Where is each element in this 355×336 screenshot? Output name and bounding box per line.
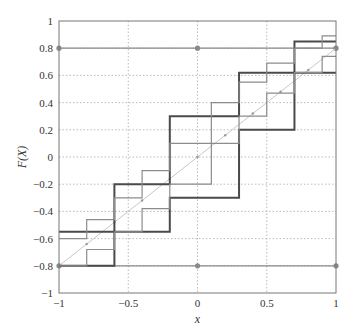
chart: −1−0.500.51 −1−0.8−0.6−0.4−0.200.20.40.6… <box>0 0 355 336</box>
diagonal-marker <box>196 156 198 158</box>
x-axis-label: x <box>194 312 201 326</box>
x-tick-label: 0.5 <box>260 297 274 309</box>
x-tick-label: 1 <box>333 297 339 309</box>
y-tick-label: −0.8 <box>33 260 53 272</box>
y-tick-label: −0.2 <box>33 178 53 190</box>
diagonal-marker <box>224 134 226 136</box>
y-tick-label: −0.4 <box>33 205 53 217</box>
y-tick-label: −0.6 <box>33 233 53 245</box>
diagonal-marker <box>252 112 254 114</box>
diagonal-marker <box>307 69 309 71</box>
y-tick-label: 0.8 <box>39 42 53 54</box>
bound-marker <box>195 46 200 51</box>
diagonal-marker <box>141 199 143 201</box>
y-axis-ticks: −1−0.8−0.6−0.4−0.200.20.40.60.81 <box>33 15 53 299</box>
y-tick-label: −1 <box>41 287 53 299</box>
y-tick-label: 0.4 <box>39 97 53 109</box>
y-tick-label: 0 <box>48 151 54 163</box>
y-tick-label: 0.2 <box>39 124 53 136</box>
y-tick-label: 1 <box>48 15 54 27</box>
x-tick-label: −1 <box>53 297 65 309</box>
x-tick-label: −0.5 <box>118 297 138 309</box>
x-tick-label: 0 <box>195 297 201 309</box>
bound-marker <box>195 263 200 268</box>
x-axis-ticks: −1−0.500.51 <box>53 297 339 309</box>
diagonal-marker <box>86 243 88 245</box>
y-tick-label: 0.6 <box>39 69 53 81</box>
y-axis-label: F(X) <box>15 146 29 170</box>
